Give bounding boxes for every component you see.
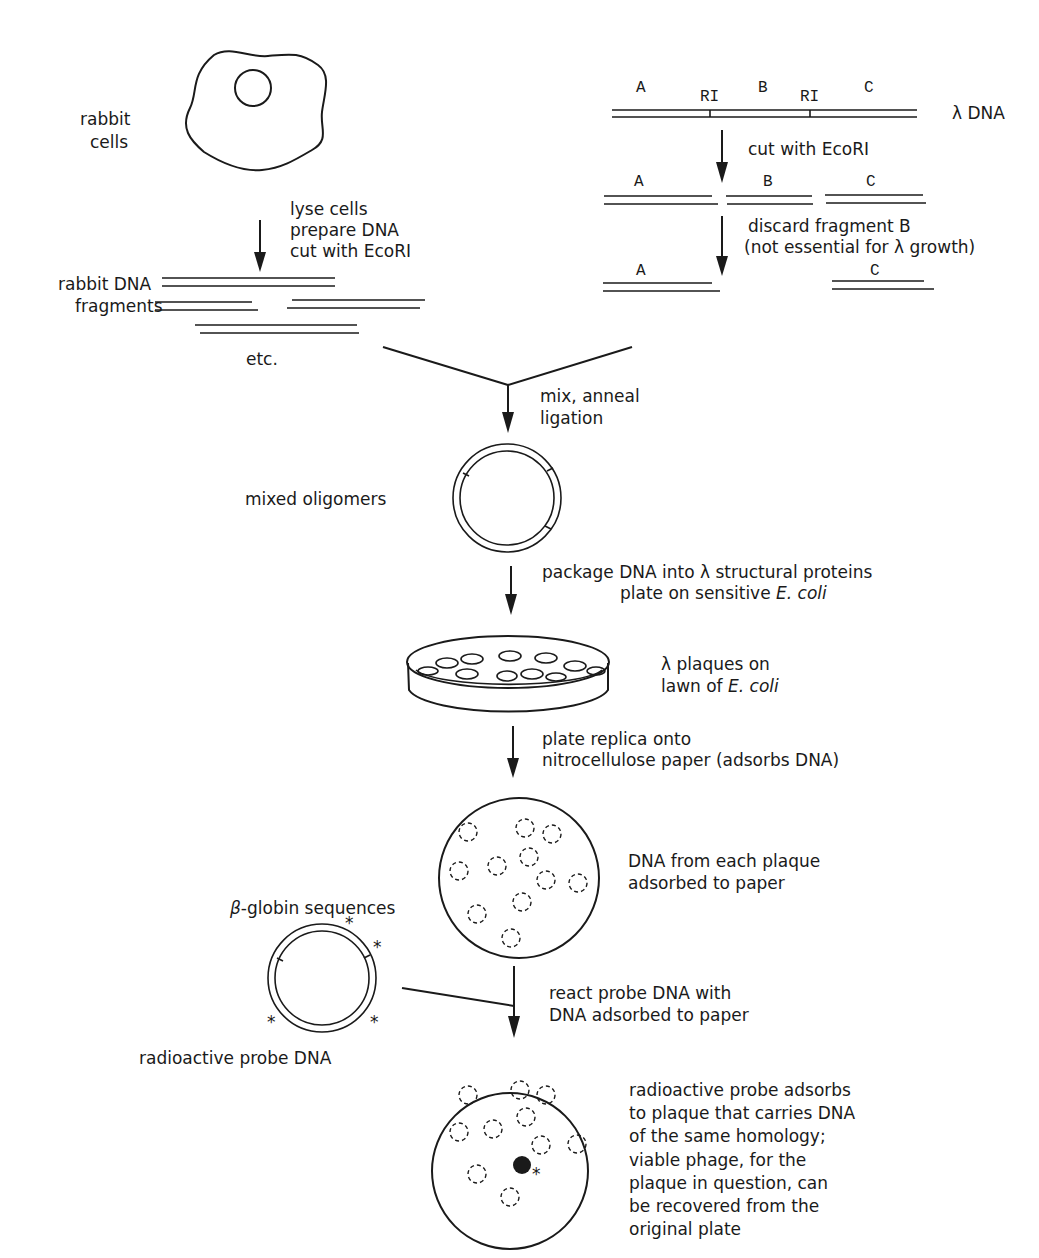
package-step-line1: package DNA into λ structural proteins (542, 562, 872, 582)
rabbit-cell-illustration (186, 51, 326, 170)
kept-label-a: A (636, 262, 646, 280)
lyse-step-line3: cut with EcoRI (290, 241, 411, 261)
discard-step-line2: (not essential for λ growth) (744, 237, 975, 257)
plaques-label-line2-text: lawn of (661, 676, 728, 696)
arrow-down-icon (716, 216, 728, 276)
etc-label: etc. (246, 349, 278, 369)
rabbit-dna-fragments (155, 278, 425, 333)
petri-dish-illustration (407, 636, 609, 712)
arrow-down-icon (716, 130, 728, 183)
plaques-label-line1: λ plaques on (661, 654, 770, 674)
lyse-step-line2: prepare DNA (290, 220, 399, 240)
result-label-line2: to plaque that carries DNA (629, 1103, 855, 1123)
package-step-line2: plate on sensitive E. coli (620, 583, 827, 603)
lambda-arms (603, 281, 934, 291)
lambda-dna-label: λ DNA (952, 103, 1005, 123)
cut-label-b: B (763, 173, 773, 191)
arrow-down-icon (507, 726, 519, 778)
nitrocellulose-filter (439, 798, 599, 958)
radioactive-marker: * (532, 1164, 541, 1184)
react-step-line1: react probe DNA with (549, 983, 731, 1003)
ligation-step-line2: ligation (540, 408, 603, 428)
radioactive-marker: * (370, 1012, 379, 1032)
mixed-oligomers-label: mixed oligomers (245, 489, 387, 509)
lambda-dna-cut-fragments (604, 195, 926, 204)
replica-step-line2: nitrocellulose paper (adsorbs DNA) (542, 750, 839, 770)
beta-symbol: β (229, 898, 241, 918)
beta-globin-label: β-globin sequences (229, 898, 396, 918)
ecori-site-label-1: RI (700, 88, 719, 106)
discard-step-line1: discard fragment B (748, 216, 911, 236)
hybridized-plaque-dot (513, 1156, 531, 1174)
radioactive-probe-label: radioactive probe DNA (139, 1048, 332, 1068)
lyse-step-line1: lyse cells (290, 199, 368, 219)
rabbit-dna-fragments-label-line2: fragments (75, 296, 163, 316)
result-label-line3: of the same homology; (629, 1126, 826, 1146)
radioactive-marker: * (345, 913, 354, 933)
radioactive-marker: * (267, 1012, 276, 1032)
cut-label-a: A (634, 173, 644, 191)
ecori-site-label-2: RI (800, 88, 819, 106)
result-label-line7: original plate (629, 1219, 741, 1239)
autoradiograph-filter (432, 1081, 588, 1249)
rabbit-cells-label-line2: cells (90, 132, 128, 152)
hybridization-connector (402, 966, 520, 1038)
cloning-diagram: rabbit cells lyse cells prepare DNA cut … (0, 0, 1039, 1258)
package-step-line2-text: plate on sensitive (620, 583, 776, 603)
rabbit-dna-fragments-label-line1: rabbit DNA (58, 274, 152, 294)
react-step-line2: DNA adsorbed to paper (549, 1005, 749, 1025)
filter-label-line2: adsorbed to paper (628, 873, 785, 893)
mixed-oligomer-circle (453, 444, 561, 552)
result-label-line4: viable phage, for the (629, 1150, 806, 1170)
radioactive-marker: * (373, 937, 382, 957)
result-label-line5: plaque in question, can (629, 1173, 828, 1193)
segment-label-a: A (636, 79, 646, 97)
segment-label-b: B (758, 79, 768, 97)
rabbit-cells-label-line1: rabbit (80, 109, 131, 129)
probe-dna-circle (268, 924, 376, 1032)
result-label-line6: be recovered from the (629, 1196, 819, 1216)
nucleus-icon (235, 70, 271, 106)
cut-label-c: C (866, 173, 876, 191)
arrow-down-icon (254, 220, 266, 272)
lambda-dna-intact (612, 110, 917, 117)
result-label-line1: radioactive probe adsorbs (629, 1080, 851, 1100)
beta-globin-label-text: -globin sequences (241, 898, 396, 918)
replica-step-line1: plate replica onto (542, 729, 691, 749)
ecoli-italic: E. coli (728, 676, 779, 696)
arrow-down-icon (505, 566, 517, 615)
kept-label-c: C (870, 262, 880, 280)
ecoli-italic: E. coli (776, 583, 827, 603)
segment-label-c: C (864, 79, 874, 97)
cut-ecori-step: cut with EcoRI (748, 139, 869, 159)
filter-label-line1: DNA from each plaque (628, 851, 820, 871)
mix-anneal-step-line1: mix, anneal (540, 386, 640, 406)
plaques-label-line2: lawn of E. coli (661, 676, 779, 696)
